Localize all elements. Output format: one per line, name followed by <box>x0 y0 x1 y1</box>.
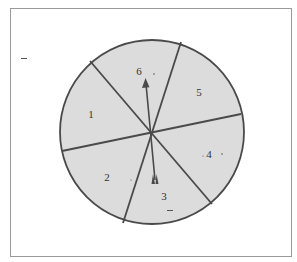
spinner-figure: 1 2 3 4 5 6 <box>0 0 297 262</box>
sector-label-6: 6 <box>136 65 142 77</box>
sector-label-4: 4 <box>206 148 212 160</box>
sector-label-2: 2 <box>104 171 110 183</box>
sector-label-5: 5 <box>196 86 202 98</box>
sector-label-1: 1 <box>88 108 94 120</box>
sector-label-3: 3 <box>161 190 167 202</box>
